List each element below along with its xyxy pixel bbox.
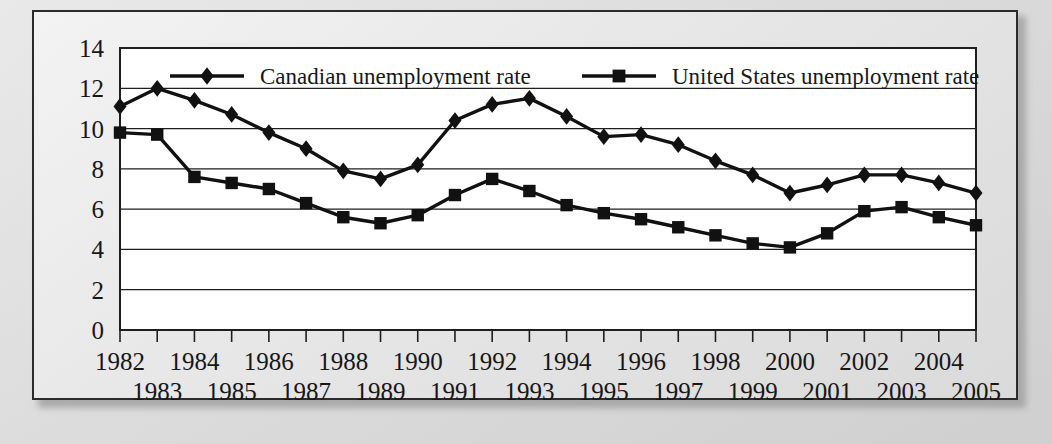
x-tick-label: 1989 <box>356 378 406 400</box>
data-point-marker <box>337 211 349 223</box>
y-tick-label: 10 <box>79 116 104 143</box>
y-tick-label: 8 <box>92 156 105 183</box>
x-tick-label: 1988 <box>318 348 368 375</box>
data-point-marker <box>895 201 907 213</box>
x-tick-label: 1986 <box>244 348 294 375</box>
data-point-marker <box>970 219 982 231</box>
data-point-marker <box>523 185 535 197</box>
data-point-marker <box>114 126 126 138</box>
x-tick-label: 1987 <box>281 378 331 400</box>
data-point-marker <box>635 213 647 225</box>
data-point-marker <box>151 128 163 140</box>
data-point-marker <box>225 177 237 189</box>
x-tick-label: 1991 <box>430 378 480 400</box>
data-point-marker <box>709 229 721 241</box>
data-point-marker <box>746 237 758 249</box>
x-tick-label: 1999 <box>728 378 778 400</box>
data-point-marker <box>560 199 572 211</box>
data-point-marker <box>486 173 498 185</box>
x-tick-label: 2003 <box>877 378 927 400</box>
x-tick-label: 1992 <box>467 348 517 375</box>
x-tick-label: 1983 <box>132 378 182 400</box>
data-point-marker <box>858 205 870 217</box>
data-point-marker <box>821 227 833 239</box>
x-axis-tick-labels: 1982198319841985198619871988198919901991… <box>95 348 1001 400</box>
x-tick-label: 1994 <box>542 348 593 375</box>
x-tick-label: 2002 <box>839 348 889 375</box>
chart-page: 02468101214 1982198319841985198619871988… <box>0 0 1052 444</box>
data-point-marker <box>300 197 312 209</box>
y-tick-label: 4 <box>92 236 105 263</box>
y-tick-label: 6 <box>92 196 105 223</box>
data-point-marker <box>784 241 796 253</box>
data-point-marker <box>613 70 626 83</box>
x-tick-label: 1984 <box>169 348 220 375</box>
x-tick-label: 2001 <box>802 378 852 400</box>
data-point-marker <box>598 207 610 219</box>
x-tick-label: 1990 <box>393 348 443 375</box>
data-point-marker <box>263 183 275 195</box>
y-tick-label: 2 <box>92 277 105 304</box>
x-tick-label: 2004 <box>914 348 965 375</box>
data-point-marker <box>412 209 424 221</box>
x-tick-label: 1997 <box>653 378 703 400</box>
x-tick-label: 1993 <box>504 378 554 400</box>
unemployment-line-chart: 02468101214 1982198319841985198619871988… <box>32 10 1018 400</box>
x-tick-label: 1996 <box>616 348 666 375</box>
y-axis-tick-labels: 02468101214 <box>79 35 105 344</box>
data-point-marker <box>449 189 461 201</box>
y-tick-label: 14 <box>79 35 105 62</box>
x-tick-label: 1982 <box>95 348 145 375</box>
y-tick-label: 0 <box>92 317 105 344</box>
data-point-marker <box>374 217 386 229</box>
data-point-marker <box>188 171 200 183</box>
x-tick-label: 1995 <box>579 378 629 400</box>
x-tick-label: 1985 <box>207 378 257 400</box>
x-tick-label: 2005 <box>951 378 1001 400</box>
legend-label: Canadian unemployment rate <box>260 64 531 89</box>
data-point-marker <box>672 221 684 233</box>
data-point-marker <box>933 211 945 223</box>
x-tick-label: 1998 <box>690 348 740 375</box>
legend-label: United States unemployment rate <box>672 64 979 89</box>
y-tick-label: 12 <box>79 75 104 102</box>
x-tick-label: 2000 <box>765 348 815 375</box>
plot-background <box>120 48 976 330</box>
